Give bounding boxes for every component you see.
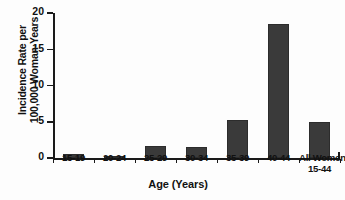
y-axis-tick-label: 0 [38, 150, 44, 162]
plot-area: 05101520 [53, 13, 340, 158]
x-axis-title: Age (Years) [53, 178, 303, 190]
category-label-line1: All Women [299, 152, 345, 163]
y-axis-tick: 10 [47, 85, 53, 87]
y-axis-title: Incidence Rate per 100,000 Woman-Years [16, 0, 40, 145]
category-label-line1: 20-24 [103, 152, 126, 163]
y-axis-tick-label: 15 [32, 42, 44, 54]
category-label-line1: 15-19 [62, 152, 85, 163]
category-label-line1: 25-29 [144, 152, 167, 163]
y-axis-tick: 20 [47, 12, 53, 14]
x-axis-category-label: 35-39 [217, 152, 258, 163]
x-axis-category-label: 25-29 [135, 152, 176, 163]
x-axis-category-label: 15-19 [53, 152, 94, 163]
category-label-line1: 30-34 [185, 152, 208, 163]
category-label-line1: 40-44 [267, 152, 290, 163]
y-axis-tick-label: 20 [32, 5, 44, 17]
y-axis-line [53, 13, 55, 158]
y-axis-tick: 5 [47, 121, 53, 123]
x-axis-category-label: 40-44 [258, 152, 299, 163]
x-axis-category-label: All Women15-44 [299, 152, 340, 174]
y-axis-tick: 15 [47, 49, 53, 51]
category-label-line2: 15-44 [299, 163, 340, 174]
bar-chart: Incidence Rate per 100,000 Woman-Years 0… [0, 0, 345, 200]
x-axis-category-label: 30-34 [176, 152, 217, 163]
y-axis-title-line1: Incidence Rate per [16, 0, 28, 145]
bar [268, 24, 289, 158]
category-label-line1: 35-39 [226, 152, 249, 163]
y-axis-tick-label: 10 [32, 78, 44, 90]
x-axis-category-label: 20-24 [94, 152, 135, 163]
y-axis-tick-label: 5 [38, 114, 44, 126]
